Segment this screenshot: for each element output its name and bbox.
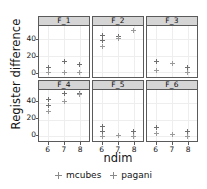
data-point-mcubes (100, 124, 105, 129)
data-point-pagani (185, 70, 190, 75)
y-tick-label: 40 (2, 36, 36, 44)
x-tick-mark (48, 142, 49, 145)
plot-area (38, 90, 90, 142)
panel-strip-label: F_1 (38, 16, 90, 26)
data-point-mcubes (46, 103, 51, 108)
plot-area (146, 26, 198, 78)
y-axis-ticks-row-1: 02040 (0, 26, 36, 78)
gridline-vertical (172, 26, 173, 77)
gridline-vertical (80, 90, 81, 141)
legend-label: mcubes (66, 170, 101, 180)
data-point-pagani (154, 131, 159, 136)
data-point-mcubes (62, 59, 67, 64)
x-tick-mark (188, 142, 189, 145)
data-point-pagani (131, 28, 136, 33)
data-point-pagani (62, 99, 67, 104)
legend: mcubespagani (0, 170, 207, 180)
x-tick-mark (134, 142, 135, 145)
x-tick-mark (64, 142, 65, 145)
data-point-pagani (185, 134, 190, 139)
data-point-mcubes (62, 91, 67, 96)
data-point-pagani (170, 61, 175, 66)
data-point-mcubes (100, 38, 105, 43)
trellis-chart: Register difference 02040 02040 F_1F_2F_… (0, 0, 207, 189)
x-tick-mark (80, 142, 81, 145)
plot-area (146, 90, 198, 142)
panel-f_5: F_5 (92, 80, 144, 142)
data-point-mcubes (77, 62, 82, 67)
legend-item-pagani: pagani (110, 170, 152, 180)
y-tick-label: 0 (2, 131, 36, 139)
data-point-pagani (46, 70, 51, 75)
plot-area (38, 26, 90, 78)
data-point-mcubes (154, 125, 159, 130)
data-point-pagani (154, 68, 159, 73)
data-point-pagani (100, 44, 105, 49)
legend-label: pagani (121, 170, 152, 180)
data-point-pagani (77, 92, 82, 97)
y-axis-ticks-row-2: 02040 (0, 88, 36, 140)
data-point-pagani (100, 134, 105, 139)
legend-item-mcubes: mcubes (55, 170, 101, 180)
x-tick-mark (102, 142, 103, 145)
x-tick-mark (156, 142, 157, 145)
panel-f_1: F_1 (38, 16, 90, 78)
panel-strip-label: F_4 (38, 80, 90, 90)
x-axis-label: ndim (38, 151, 198, 165)
y-tick-label: 20 (2, 114, 36, 122)
data-point-pagani (62, 70, 67, 75)
data-point-pagani (77, 70, 82, 75)
panel-grid: F_1F_2F_3F_4F_5F_6 (38, 16, 198, 142)
panel-f_6: F_6 (146, 80, 198, 142)
panel-f_3: F_3 (146, 16, 198, 78)
data-point-pagani (131, 134, 136, 139)
y-tick-label: 40 (2, 98, 36, 106)
plot-area (92, 90, 144, 142)
panel-strip-label: F_5 (92, 80, 144, 90)
panel-strip-label: F_2 (92, 16, 144, 26)
panel-strip-label: F_3 (146, 16, 198, 26)
panel-f_4: F_4 (38, 80, 90, 142)
plus-marker-icon (110, 172, 117, 179)
x-tick-mark (172, 142, 173, 145)
y-tick-label: 0 (2, 69, 36, 77)
data-point-pagani (170, 132, 175, 137)
data-point-mcubes (154, 59, 159, 64)
data-point-pagani (46, 109, 51, 114)
panel-strip-label: F_6 (146, 80, 198, 90)
plus-marker-icon (55, 172, 62, 179)
data-point-pagani (116, 36, 121, 41)
x-tick-mark (118, 142, 119, 145)
data-point-mcubes (100, 33, 105, 38)
panel-f_2: F_2 (92, 16, 144, 78)
data-point-mcubes (46, 97, 51, 102)
plot-area (92, 26, 144, 78)
data-point-pagani (116, 133, 121, 138)
y-tick-label: 20 (2, 52, 36, 60)
gridline-vertical (64, 90, 65, 141)
gridline-vertical (134, 26, 135, 77)
